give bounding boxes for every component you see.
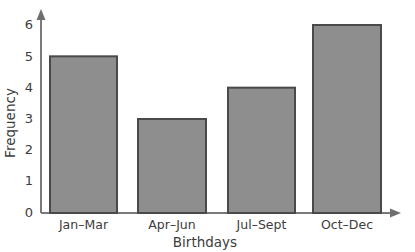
- bar-jul-sept: [228, 88, 295, 213]
- x-tick-label-apr-jun: Apr–Jun: [148, 217, 195, 232]
- chart-canvas: 0 1 2 3 4 5 6 Jan–Mar Apr–Jun Jul–Sept O…: [0, 0, 415, 252]
- bar-jan-mar: [50, 56, 117, 213]
- y-tick-label-2: 2: [25, 142, 33, 157]
- y-axis: [37, 9, 46, 213]
- x-tick-labels: Jan–Mar Apr–Jun Jul–Sept Oct–Dec: [58, 217, 373, 232]
- y-tick-label-3: 3: [25, 111, 33, 126]
- x-axis-title: Birthdays: [173, 234, 237, 250]
- y-tick-label-1: 1: [25, 173, 33, 188]
- y-axis-arrow-icon: [37, 9, 46, 20]
- y-tick-label-0: 0: [25, 205, 33, 220]
- x-tick-label-jan-mar: Jan–Mar: [58, 217, 109, 232]
- bar-chart-figure: 0 1 2 3 4 5 6 Jan–Mar Apr–Jun Jul–Sept O…: [0, 0, 415, 252]
- x-tick-label-oct-dec: Oct–Dec: [321, 217, 373, 232]
- y-tick-label-6: 6: [25, 17, 33, 32]
- x-axis-arrow-icon: [390, 209, 401, 218]
- y-axis-title: Frequency: [2, 88, 18, 158]
- bar-oct-dec: [313, 25, 381, 213]
- y-tick-label-5: 5: [25, 49, 33, 64]
- y-tick-labels: 0 1 2 3 4 5 6: [25, 17, 33, 220]
- bar-apr-jun: [138, 119, 206, 213]
- y-tick-label-4: 4: [25, 80, 33, 95]
- x-tick-label-jul-sept: Jul–Sept: [236, 217, 287, 232]
- bars-group: [50, 25, 381, 213]
